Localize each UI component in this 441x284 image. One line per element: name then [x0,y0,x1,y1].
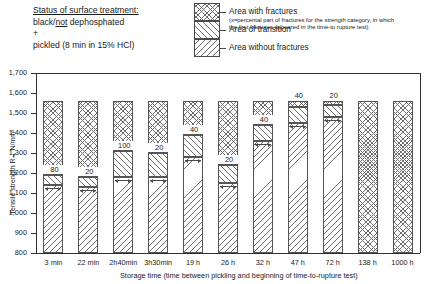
transition-span-arrow-icon [115,180,131,181]
chart-axes: 8009001,0001,1001,2001,3001,4001,5001,60… [36,73,420,253]
segment-with-fractures [358,101,378,253]
bar-value-label: 80 [40,165,68,174]
y-axis-tick-label: 800 [0,248,27,257]
segment-transition [183,135,203,157]
bar-value-label: 40 [285,91,313,100]
bar-value-label: 40 [180,125,208,134]
bar-26-h[interactable] [218,101,238,253]
plot-right-border [420,73,421,253]
plot-top-border [36,73,420,74]
y-axis-tick-label: 1,700 [0,68,27,77]
y-axis-tick-label: 1,000 [0,208,27,217]
segment-with-fractures [43,101,63,175]
bar-138-h[interactable] [358,101,378,253]
legend-label-fractures: Area with fractures [229,7,297,17]
status-line-2: + [33,28,213,39]
y-axis-tick-label: 1,300 [0,148,27,157]
segment-transition [78,177,98,187]
transition-span-arrow-icon [220,186,236,187]
segment-without-fractures [288,123,308,253]
bar-2h40min[interactable] [113,101,133,253]
segment-without-fractures [183,157,203,253]
y-axis-tick-label: 1,500 [0,108,27,117]
transition-span-arrow-icon [290,126,306,127]
bar-value-label: 20 [215,155,243,164]
y-axis-line [36,73,37,253]
segment-transition [253,125,273,141]
y-axis-tick [31,173,36,174]
bar-value-label: 100 [110,141,138,150]
bar-72-h[interactable] [323,101,343,253]
x-axis-line [36,253,420,254]
status-line-1-not: not [55,17,67,27]
legend-swatch-without-fractures-icon [194,39,220,57]
transition-span-arrow-icon [185,160,201,161]
y-axis-tick [31,213,36,214]
segment-transition [323,105,343,117]
y-axis-tick [31,93,36,94]
bar-3-min[interactable] [43,101,63,253]
y-axis-tick [31,233,36,234]
segment-transition [288,107,308,123]
status-title: Status of surface treatment: [33,5,213,16]
bar-value-label: 20 [75,167,103,176]
legend-label-without-fractures: Area without fractures [229,43,309,53]
y-axis-tick [31,73,36,74]
y-axis-tick-label: 1,400 [0,128,27,137]
y-axis-tick-label: 1,600 [0,88,27,97]
legend-swatch-transition-icon [194,21,220,39]
segment-transition [113,151,133,177]
bar-value-label: 40 [250,115,278,124]
y-axis-tick [31,253,36,254]
y-axis-tick-label: 1,100 [0,188,27,197]
segment-without-fractures [253,141,273,253]
transition-span-arrow-icon [255,144,271,145]
y-axis-tick [31,113,36,114]
bar-1000-h[interactable] [393,101,413,253]
status-line-3: pickled (8 min in 15% HCl) [33,39,213,51]
legend-label-transition: Area of transition [229,25,291,35]
x-axis-label: Storage time (time between pickling and … [120,271,358,280]
segment-without-fractures [78,187,98,253]
segment-with-fractures [393,101,413,253]
chart-plot-area: Tensile strength Rₘ, N/mm² 8009001,0001,… [0,68,441,284]
y-axis-tick-label: 1,200 [0,168,27,177]
transition-span-arrow-icon [80,190,96,191]
y-axis-tick-label: 900 [0,228,27,237]
status-line-1: black/not dephosphated [33,16,213,28]
bar-value-label: 20 [145,143,173,152]
segment-without-fractures [113,177,133,253]
bar-22-min[interactable] [78,101,98,253]
status-line-1-c: dephosphated [67,17,124,27]
segment-with-fractures [78,101,98,177]
transition-span-arrow-icon [45,188,61,189]
x-axis-tick-label: 1000 h [379,258,427,267]
bar-19-h[interactable] [183,101,203,253]
legend-tick-icon [220,30,226,31]
y-axis-tick [31,193,36,194]
transition-span-arrow-icon [150,180,166,181]
segment-without-fractures [218,183,238,253]
legend-tick-icon [220,48,226,49]
y-axis-tick [31,153,36,154]
segment-transition [148,153,168,177]
transition-span-arrow-icon [325,120,341,121]
surface-treatment-status: Status of surface treatment: black/not d… [33,5,213,51]
bar-value-label: 20 [320,91,348,100]
segment-transition [43,175,63,185]
status-line-1-a: black/ [33,17,55,27]
segment-without-fractures [323,117,343,253]
segment-transition [218,165,238,183]
bar-3h30min[interactable] [148,101,168,253]
chart-header: Status of surface treatment: black/not d… [0,0,441,68]
legend-tick-icon [220,12,226,13]
segment-without-fractures [43,185,63,253]
y-axis-tick [31,133,36,134]
segment-without-fractures [148,177,168,253]
legend-swatch-fractures-icon [194,3,220,21]
